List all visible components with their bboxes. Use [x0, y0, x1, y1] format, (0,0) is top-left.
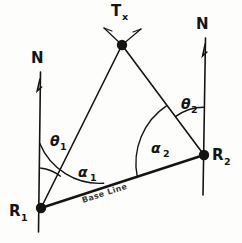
label-theta1: θ	[50, 133, 60, 149]
label-alpha1-subscript: 1	[90, 172, 97, 183]
vertex-dot-tx	[117, 40, 127, 50]
label-alpha2-subscript: 2	[163, 148, 170, 159]
vertex-dot-r2	[199, 150, 209, 160]
triangulation-diagram: T x R 1 R 2 N N θ 1 α 1 θ 2 α 2 Base Lin…	[0, 0, 242, 243]
label-theta1-subscript: 1	[60, 141, 67, 152]
label-tx: T	[111, 2, 122, 20]
base-line-segment	[41, 155, 204, 208]
diagram-canvas: T x R 1 R 2 N N θ 1 α 1 θ 2 α 2 Base Lin…	[0, 0, 242, 243]
label-base-line: Base Line	[81, 182, 129, 205]
label-north-right: N	[196, 15, 209, 33]
label-alpha1: α	[78, 164, 88, 180]
label-theta2: θ	[181, 96, 191, 112]
label-theta2-subscript: 2	[191, 104, 198, 115]
label-alpha2: α	[151, 140, 161, 156]
north-line-right	[203, 38, 206, 195]
label-r2-subscript: 2	[224, 156, 231, 167]
label-r1-subscript: 1	[21, 212, 28, 223]
north-line-right-group	[203, 38, 207, 195]
label-north-left: N	[31, 49, 44, 67]
label-tx-subscript: x	[122, 11, 128, 22]
vertex-dot-r1	[36, 203, 46, 213]
bearing-line-tx-r2	[122, 45, 204, 155]
label-r2: R	[212, 146, 224, 164]
bearing-line-tx-r1	[41, 45, 122, 208]
label-r1: R	[9, 202, 21, 220]
